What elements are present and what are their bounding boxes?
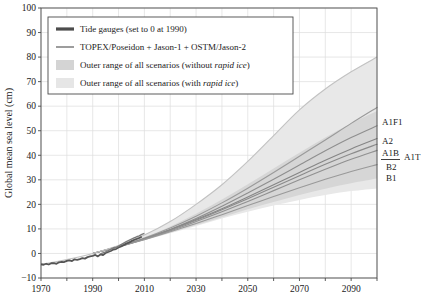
x-tick-label: 1990 xyxy=(83,284,102,294)
legend-label: Tide gauges (set to 0 at 1990) xyxy=(80,24,187,34)
y-tick-label: 20 xyxy=(27,200,37,210)
scenario-annotation: A2 xyxy=(382,136,393,146)
legend-label-part: ) xyxy=(235,78,238,88)
chart-canvas: 1970199020102030205020702090 −1001020304… xyxy=(0,0,424,307)
x-tick-label: 1970 xyxy=(32,284,51,294)
y-tick-label: 70 xyxy=(27,77,37,87)
legend-label-part: Outer range of all scenarios (with xyxy=(80,78,203,88)
legend-swatch-band-rapid-ice xyxy=(56,78,74,88)
scenario-annotation: A1B xyxy=(382,148,399,158)
scenario-annotation: B1 xyxy=(386,173,397,183)
legend-label-emphasis: rapid ice xyxy=(203,78,235,88)
legend-label-part: Outer range of all scenarios (without xyxy=(80,60,214,70)
legend-label: TOPEX/Poseidon + Jason-1 + OSTM/Jason-2 xyxy=(80,42,246,52)
x-tick-label: 2030 xyxy=(187,284,206,294)
y-axis-title-text: Global mean sea level (cm) xyxy=(3,88,15,198)
chart-legend: Tide gauges (set to 0 at 1990)TOPEX/Pose… xyxy=(48,17,293,94)
y-tick-label: 100 xyxy=(22,3,37,13)
y-tick-label: 40 xyxy=(27,151,37,161)
y-tick-label: 90 xyxy=(27,28,37,38)
x-tick-label: 2010 xyxy=(135,284,154,294)
legend-label-part: ) xyxy=(247,60,250,70)
y-tick-label: −10 xyxy=(21,273,36,283)
legend-swatch-band-no-rapid-ice xyxy=(56,60,74,70)
legend-label-emphasis: rapid ice xyxy=(214,60,246,70)
x-tick-label: 2090 xyxy=(342,284,361,294)
y-tick-label: 60 xyxy=(27,101,37,111)
scenario-annotation: B2 xyxy=(386,162,397,172)
x-tick-label: 2050 xyxy=(238,284,257,294)
legend-label: Outer range of all scenarios (without ra… xyxy=(80,60,250,70)
scenario-annotation: A1F1 xyxy=(382,117,403,127)
y-axis-title: Global mean sea level (cm) xyxy=(3,88,15,198)
y-tick-label: 80 xyxy=(27,52,37,62)
y-tick-label: 10 xyxy=(27,224,37,234)
legend-label: Outer range of all scenarios (with rapid… xyxy=(80,78,238,88)
y-tick-label: 50 xyxy=(27,126,37,136)
sea-level-projection-chart: 1970199020102030205020702090 −1001020304… xyxy=(0,0,424,307)
y-tick-label: 30 xyxy=(27,175,37,185)
x-tick-label: 2070 xyxy=(290,284,309,294)
scenario-annotation: A1T xyxy=(404,152,421,162)
y-tick-label: 0 xyxy=(31,249,36,259)
